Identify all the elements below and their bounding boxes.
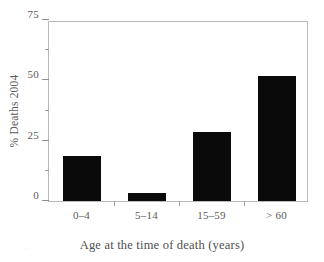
plot-area: 0255075 0–45–1415–59> 60 [48,21,308,202]
y-axis-title: % Deaths 2004 [8,75,20,148]
bar [258,76,296,201]
y-tick-major [42,200,49,201]
y-tick-major [42,19,49,20]
x-tick [244,201,245,206]
x-tick [179,201,180,206]
x-axis-title: Age at the time of death (years) [0,239,324,252]
y-tick-label: 25 [28,129,39,140]
y-tick-label: 50 [28,69,39,80]
bar-series [49,22,307,201]
y-tick-label: 0 [33,190,39,201]
y-tick-minor [45,49,49,50]
y-tick-minor [45,170,49,171]
x-tick-label: > 60 [266,210,287,221]
y-tick-minor [45,110,49,111]
y-tick-major [42,79,49,80]
y-tick-label: 75 [28,9,39,20]
scan-artifact-mark: · [25,246,30,251]
bar [193,132,231,201]
x-tick-label: 5–14 [135,210,158,221]
y-tick-major [42,140,49,141]
bar [63,156,101,201]
x-tick-label: 0–4 [73,210,90,221]
x-tick [114,201,115,206]
bar-chart-figure: 0255075 0–45–1415–59> 60 % Deaths 2004 A… [0,0,324,262]
x-tick-label: 15–59 [197,210,226,221]
bar [128,193,166,201]
